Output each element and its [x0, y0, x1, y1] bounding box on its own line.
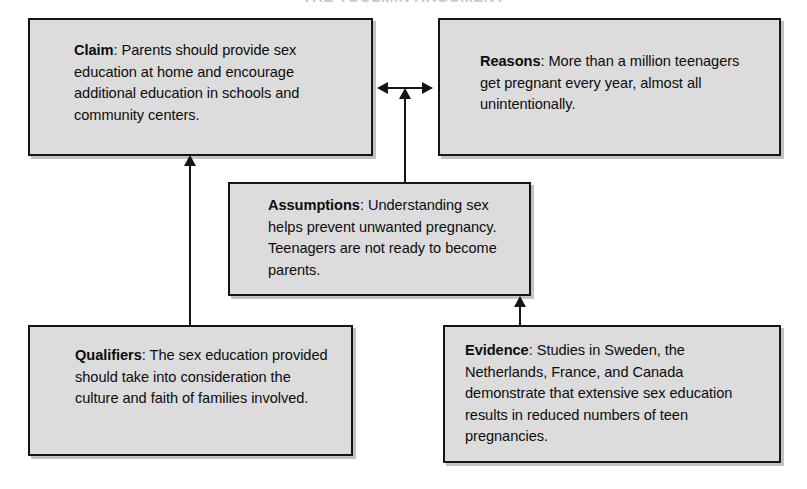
connector-assumptions-arrowhead-up-icon	[399, 88, 411, 99]
connector-evidence-assumptions-line	[519, 306, 521, 325]
connector-assumptions-up-line	[404, 97, 406, 182]
node-claim-separator: :	[114, 42, 122, 58]
connector-evidence-arrowhead-up-icon	[514, 296, 526, 307]
node-evidence: Evidence: Studies in Sweden, the Netherl…	[443, 325, 781, 463]
node-claim-label: Claim	[74, 42, 114, 58]
node-assumptions-separator: :	[360, 197, 368, 213]
node-qualifiers: Qualifiers: The sex education provided s…	[28, 325, 353, 456]
node-claim-text: Claim: Parents should provide sex educat…	[30, 40, 371, 126]
node-reasons: Reasons: More than a million teenagers g…	[438, 18, 781, 156]
node-evidence-label: Evidence	[465, 342, 529, 358]
diagram-title-clipped: THE TOULMIN ARGUMENT	[0, 0, 807, 7]
node-evidence-separator: :	[529, 342, 537, 358]
node-assumptions: Assumptions: Understanding sex helps pre…	[228, 182, 531, 296]
node-qualifiers-separator: :	[142, 347, 150, 363]
node-reasons-separator: :	[540, 53, 548, 69]
node-assumptions-text: Assumptions: Understanding sex helps pre…	[230, 195, 529, 281]
node-claim: Claim: Parents should provide sex educat…	[28, 18, 373, 156]
node-evidence-text: Evidence: Studies in Sweden, the Netherl…	[445, 340, 779, 448]
node-reasons-label: Reasons	[480, 53, 540, 69]
node-assumptions-label: Assumptions	[268, 197, 360, 213]
connector-claim-reasons-arrowhead-left-icon	[377, 82, 388, 94]
connector-qualifiers-claim-line	[189, 166, 191, 325]
diagram-title-text: THE TOULMIN ARGUMENT	[0, 0, 807, 5]
node-reasons-text: Reasons: More than a million teenagers g…	[440, 51, 779, 116]
node-qualifiers-label: Qualifiers	[75, 347, 142, 363]
node-qualifiers-text: Qualifiers: The sex education provided s…	[30, 345, 351, 410]
diagram-canvas: THE TOULMIN ARGUMENT Claim: Parents shou…	[0, 0, 807, 489]
connector-claim-reasons-arrowhead-right-icon	[422, 82, 433, 94]
connector-qualifiers-arrowhead-up-icon	[184, 155, 196, 166]
